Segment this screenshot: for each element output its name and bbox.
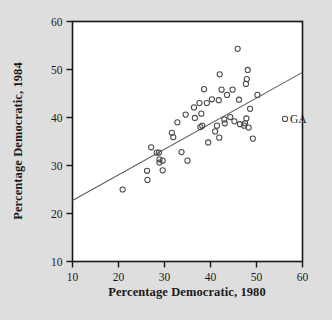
x-axis-title: Percentage Democratic, 1980 <box>108 285 266 299</box>
x-tick-label: 50 <box>251 271 263 283</box>
plot-canvas: 102030405060 102030405060 GA Percentage … <box>0 0 332 320</box>
y-tick-label: 20 <box>51 208 63 220</box>
scatter-plot-figure: 102030405060 102030405060 GA Percentage … <box>0 0 332 320</box>
x-tick-label: 30 <box>159 271 171 283</box>
plot-frame <box>73 22 303 262</box>
y-tick-label: 40 <box>51 112 63 124</box>
data-point-label: GA <box>290 113 307 125</box>
y-tick-label: 30 <box>51 160 63 172</box>
y-tick-label: 10 <box>51 256 63 268</box>
x-tick-label: 20 <box>113 271 125 283</box>
y-tick-label: 60 <box>51 16 63 28</box>
y-tick-label: 50 <box>51 64 63 76</box>
x-tick-label: 10 <box>67 271 79 283</box>
y-axis-title: Percentage Democratic, 1984 <box>11 62 25 220</box>
x-tick-label: 40 <box>205 271 217 283</box>
x-tick-label: 60 <box>297 271 309 283</box>
